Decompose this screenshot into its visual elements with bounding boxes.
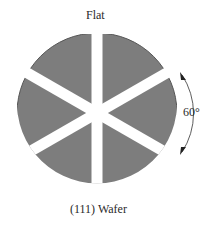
flat-label: Flat [86,8,105,23]
arrowhead-down-icon [180,147,186,155]
angle-label: 60° [183,105,200,120]
wafer-diagram [0,0,212,226]
arrowhead-up-icon [180,72,186,80]
wafer-title: (111) Wafer [70,202,127,217]
wafer [0,0,212,210]
